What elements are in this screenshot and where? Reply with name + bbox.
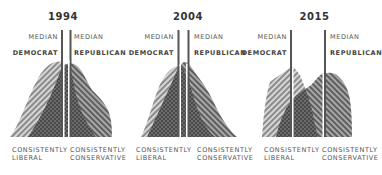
median-democrat-line <box>61 30 63 137</box>
axis-label-conservative: Consistently Conservative <box>70 146 127 162</box>
distribution-chart <box>125 0 251 140</box>
distribution-chart <box>0 0 126 140</box>
median-republican-line <box>70 30 72 137</box>
panel-2004: 2004 Median Democrat Median Republican C… <box>125 0 251 175</box>
median-democrat-line <box>290 30 292 137</box>
axis-label-liberal: Consistently Liberal <box>264 146 320 162</box>
distribution-chart <box>250 0 379 140</box>
axis-label-liberal: Consistently Liberal <box>12 146 68 162</box>
axis-label-conservative: Consistently Conservative <box>197 146 254 162</box>
median-republican-line <box>324 30 326 137</box>
axis-label-conservative: Consistently Conservative <box>322 146 379 162</box>
panel-2015: 2015 Median Democrat Median Republican C… <box>250 0 379 175</box>
axis-label-liberal: Consistently Liberal <box>136 146 192 162</box>
panel-1994: 1994 Median Democrat Median Republican C… <box>0 0 126 175</box>
median-democrat-line <box>178 30 180 137</box>
median-republican-line <box>188 30 190 137</box>
